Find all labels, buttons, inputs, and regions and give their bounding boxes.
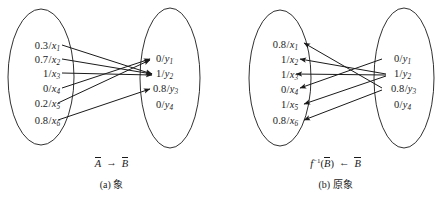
set-item-label: 0.8/y3 [153, 84, 178, 96]
set-item-label: 0.8/y3 [391, 84, 416, 96]
panel-a-caption: (a) 象 [0, 176, 223, 191]
arrow-right-icon: → [101, 157, 122, 168]
panel-image-mapping: 0.3/x1 0.7/x2 1/x3 0/x4 0.2/x5 0.8/x6 0/… [0, 0, 223, 200]
panel-a-mapping-caption: A→B [0, 157, 223, 169]
set-item-label: 0/y4 [394, 100, 411, 112]
set-item-label: 0/x4 [240, 85, 298, 97]
edge-y2-x5 [304, 76, 386, 104]
panel-b-mapping-caption: f−1(B)←B [224, 157, 447, 169]
set-item-label: 0/y1 [156, 54, 173, 66]
set-item-label: 1/x3 [240, 70, 298, 82]
panel-b-caption-text: 原象 [333, 179, 353, 190]
panel-b-caption: (b) 原象 [224, 176, 447, 191]
set-item-label: 0.7/x2 [2, 55, 60, 67]
set-item-label: 0.2/x5 [2, 99, 60, 111]
set-item-label: 0.8/x6 [240, 116, 298, 128]
set-item-label: 1/x5 [240, 100, 298, 112]
edge-y3-x6 [304, 90, 382, 120]
set-item-label: 1/x2 [240, 55, 298, 67]
edge-y1-x4 [300, 59, 382, 88]
panel-preimage-mapping: 0.8/x1 1/x2 1/x3 0/x4 1/x5 0.8/x6 0/y1 1… [224, 0, 447, 200]
target-set-symbol: B [354, 157, 360, 169]
figure-root: 0.3/x1 0.7/x2 1/x3 0/x4 0.2/x5 0.8/x6 0/… [0, 0, 447, 200]
edge-x6-y3 [58, 89, 150, 120]
set-item-label: 1/y2 [156, 69, 173, 81]
set-item-label: 0.3/x1 [2, 41, 60, 53]
panel-a-caption-index: (a) [100, 179, 111, 190]
set-item-label: 0/y4 [156, 100, 173, 112]
set-item-label: 0/y1 [394, 54, 411, 66]
edge-x1-y2 [62, 45, 152, 74]
arrow-left-icon: ← [334, 157, 355, 168]
edge-y2-x2 [300, 59, 386, 74]
set-item-label: 0.8/x1 [240, 40, 298, 52]
set-item-label: 1/y2 [394, 69, 411, 81]
set-item-label: 1/x3 [2, 69, 60, 81]
edge-y2-x3 [296, 74, 386, 75]
set-item-label: 0/x4 [2, 84, 60, 96]
panel-a-caption-text: 象 [113, 179, 123, 190]
panel-b-caption-index: (b) [318, 179, 330, 190]
edge-x2-y2 [62, 59, 152, 74]
target-set-symbol: B [122, 157, 128, 169]
set-item-label: 0.8/x6 [2, 116, 60, 128]
source-set-symbol: f−1(B) [310, 158, 334, 169]
